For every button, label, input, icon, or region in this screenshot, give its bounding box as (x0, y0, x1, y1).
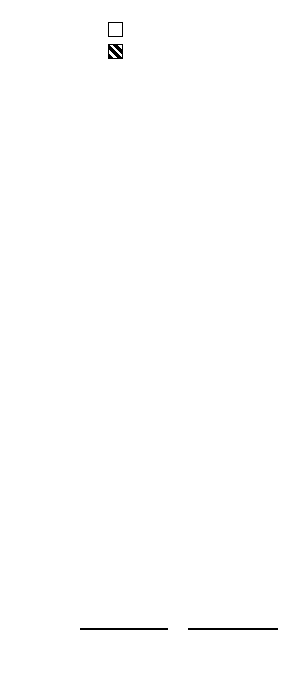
group-rule-1 (80, 628, 168, 630)
group-rule-2 (188, 628, 278, 630)
plot-area-top (70, 75, 292, 270)
legend-item-anatomical (108, 40, 288, 62)
chart-top-panel (0, 75, 304, 270)
plot-area-bottom (70, 345, 292, 545)
open-square-icon (108, 22, 123, 37)
legend (108, 18, 288, 62)
legend-item-circular (108, 18, 288, 40)
chart-bottom-panel (0, 345, 304, 545)
hatched-square-icon (108, 44, 123, 59)
